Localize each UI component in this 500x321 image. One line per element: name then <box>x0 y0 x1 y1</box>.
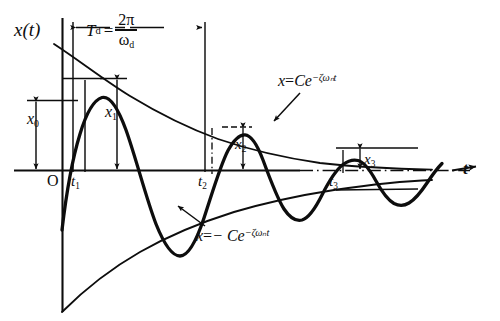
origin-label: O <box>47 173 59 189</box>
period-denominator: ωd <box>116 31 137 50</box>
lower-envelope-curve <box>62 180 432 312</box>
upper-envelope-equation: x=Ce−ζωₙt <box>278 73 336 89</box>
lower-envelope-leader <box>178 206 205 226</box>
amplitude-marker-x0: x0 <box>27 111 39 129</box>
lower-envelope-exponent: −ζωₙt <box>245 227 270 238</box>
time-marker-t1: t1 <box>71 174 80 191</box>
time-marker-t2: t2 <box>198 174 207 191</box>
damped-oscillation-figure: x(t) t O t1 t2 t3 x0 x1 x2 x3 Td = 2π ωd… <box>0 0 500 321</box>
amplitude-marker-x3: x3 <box>364 152 375 169</box>
period-equals: = <box>104 22 114 39</box>
axis-group <box>14 18 476 312</box>
amplitude-marker-x1: x1 <box>105 104 117 122</box>
t-axis-label: t <box>463 160 468 177</box>
period-numerator: 2π <box>115 12 137 29</box>
period-symbol-subscript: d <box>95 26 100 37</box>
time-marker-t3: t3 <box>329 174 338 191</box>
period-symbol: T <box>86 22 95 39</box>
lower-tail-line <box>336 189 418 190</box>
amplitude-marker-x2: x2 <box>235 137 246 154</box>
upper-envelope-leader <box>274 93 300 121</box>
y-axis-label: x(t) <box>14 20 40 39</box>
period-fraction: 2π ωd <box>115 12 137 50</box>
upper-envelope-exponent: −ζωₙt <box>312 72 337 83</box>
figure-canvas <box>0 0 500 321</box>
period-formula: Td = 2π ωd <box>86 12 137 50</box>
lower-envelope-equation: x=− Ce−ζωₙt <box>196 228 269 244</box>
